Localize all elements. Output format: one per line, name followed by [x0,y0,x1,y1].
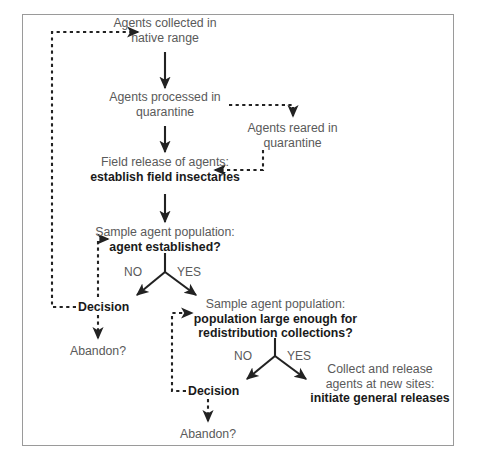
node-agents-reared-line1: Agents reared in [225,121,360,136]
node-decision-1-label: Decision [78,300,129,314]
branch-label-fork2-no: NO [234,349,252,363]
flowchart-figure: Agents collected in native range Agents … [0,0,480,462]
node-agents-collected-line1: Agents collected in [95,16,235,31]
branch-label-fork2-yes: YES [287,349,311,363]
branch-label-fork1-yes: YES [177,265,201,279]
node-abandon-1: Abandon? [62,344,134,359]
node-field-release: Field release of agents: establish field… [75,155,255,184]
node-agents-collected-line2: native range [95,31,235,46]
node-collect-and-release: Collect and release agents at new sites:… [310,362,450,406]
node-agents-reared: Agents reared in quarantine [225,121,360,150]
node-sample2-line1: Sample agent population: [193,297,358,312]
node-agents-collected: Agents collected in native range [95,16,235,45]
node-sample2-line2: population large enough for [193,312,358,327]
node-sample2-line3: redistribution collections? [193,326,358,341]
branch-label-fork1-no: NO [124,265,142,279]
node-agents-reared-line2: quarantine [225,136,360,151]
node-sample-agent-population-1: Sample agent population: agent establish… [80,225,250,254]
node-collect-release-line3: initiate general releases [310,391,450,406]
node-collect-release-line2: agents at new sites: [310,377,450,392]
node-abandon-2-label: Abandon? [172,427,244,442]
node-abandon-1-label: Abandon? [62,344,134,359]
node-field-release-line1: Field release of agents: [75,155,255,170]
node-agents-processed: Agents processed in quarantine [95,90,235,119]
node-collect-release-line1: Collect and release [310,362,450,377]
node-decision-1: Decision [78,300,138,315]
node-sample-agent-population-2: Sample agent population: population larg… [193,297,358,341]
node-abandon-2: Abandon? [172,427,244,442]
node-agents-processed-line1: Agents processed in [95,90,235,105]
node-sample1-line2: agent established? [80,240,250,255]
node-decision-2: Decision [188,384,248,399]
node-decision-2-label: Decision [188,384,239,398]
node-field-release-line2: establish field insectaries [75,170,255,185]
node-sample1-line1: Sample agent population: [80,225,250,240]
node-agents-processed-line2: quarantine [95,105,235,120]
